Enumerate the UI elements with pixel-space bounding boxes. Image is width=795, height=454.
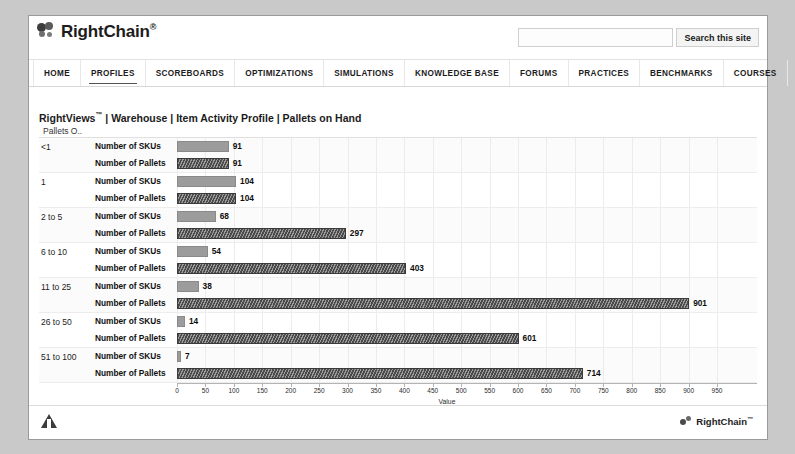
- chart-bar-row: Number of Pallets601: [39, 330, 757, 347]
- chart-category-group: 51 to 100Number of SKUs7Number of Pallet…: [39, 348, 757, 383]
- nav-item-benchmarks[interactable]: BENCHMARKS: [640, 60, 724, 86]
- bar-area: 91: [177, 138, 757, 155]
- site-header: RightChain® Search this site: [29, 16, 767, 60]
- nav-item-knowledge-base[interactable]: KNOWLEDGE BASE: [405, 60, 510, 86]
- bar-value-label: 104: [240, 176, 254, 186]
- brand-trademark: ®: [150, 22, 156, 32]
- bar-value-label: 297: [350, 228, 364, 238]
- bar-pallets[interactable]: [177, 193, 236, 204]
- breadcrumb-root[interactable]: RightViews: [39, 112, 95, 124]
- bar-pallets[interactable]: [177, 158, 229, 169]
- series-label: Number of Pallets: [95, 298, 166, 308]
- bar-area: 68: [177, 208, 757, 225]
- nav-item-label: PROFILES: [91, 69, 135, 78]
- axis-tick-label: 550: [484, 387, 495, 394]
- triangle-logo-icon: [41, 414, 57, 428]
- gear-cluster-icon: [37, 22, 57, 42]
- search-input[interactable]: [518, 28, 673, 47]
- axis-tick-label: 250: [314, 387, 325, 394]
- chart-category-group: 11 to 25Number of SKUs38Number of Pallet…: [39, 278, 757, 313]
- chart-bar-row: Number of SKUs68: [39, 208, 757, 225]
- search-button[interactable]: Search this site: [676, 28, 759, 47]
- nav-item-scoreboards[interactable]: SCOREBOARDS: [146, 60, 235, 86]
- series-label: Number of Pallets: [95, 368, 166, 378]
- bar-pallets[interactable]: [177, 368, 583, 379]
- nav-item-forums[interactable]: FORUMS: [510, 60, 569, 86]
- nav-item-profiles[interactable]: PROFILES: [81, 60, 146, 86]
- nav-item-practices[interactable]: PRACTICES: [569, 60, 640, 86]
- content-card: RightChain® Search this site HOMEPROFILE…: [28, 15, 768, 440]
- bar-pallets[interactable]: [177, 228, 346, 239]
- chart-bar-row: Number of Pallets403: [39, 260, 757, 277]
- breadcrumb-trail: | Warehouse | Item Activity Profile | Pa…: [102, 112, 361, 124]
- bar-skus[interactable]: [177, 246, 208, 257]
- screenshot-root: RightChain® Search this site HOMEPROFILE…: [0, 0, 795, 454]
- site-search: Search this site: [518, 28, 759, 47]
- bar-value-label: 7: [185, 351, 190, 361]
- bar-value-label: 38: [203, 281, 212, 291]
- bar-area: 14: [177, 313, 757, 330]
- bar-area: 38: [177, 278, 757, 295]
- bar-area: 104: [177, 190, 757, 207]
- bar-area: 54: [177, 243, 757, 260]
- bar-value-label: 91: [233, 158, 242, 168]
- axis-tick-label: 50: [202, 387, 209, 394]
- gear-cluster-icon: [680, 415, 693, 428]
- chart-bar-row: Number of SKUs14: [39, 313, 757, 330]
- chart-category-group: 2 to 5Number of SKUs68Number of Pallets2…: [39, 208, 757, 243]
- series-label: Number of SKUs: [95, 281, 161, 291]
- chart-bar-row: Number of SKUs38: [39, 278, 757, 295]
- bar-pallets[interactable]: [177, 298, 689, 309]
- bar-area: 7: [177, 348, 757, 365]
- axis-tick-label: 100: [228, 387, 239, 394]
- bar-value-label: 403: [410, 263, 424, 273]
- bar-value-label: 104: [240, 193, 254, 203]
- axis-tick-label: 650: [541, 387, 552, 394]
- bar-skus[interactable]: [177, 211, 216, 222]
- axis-tick-label: 950: [712, 387, 723, 394]
- site-logo[interactable]: RightChain®: [37, 22, 156, 42]
- axis-tick-label: 800: [626, 387, 637, 394]
- nav-item-simulations[interactable]: SIMULATIONS: [324, 60, 405, 86]
- nav-item-label: PRACTICES: [579, 69, 629, 78]
- nav-item-optimizations[interactable]: OPTIMIZATIONS: [235, 60, 324, 86]
- nav-item-courses[interactable]: COURSES: [724, 60, 788, 86]
- bar-skus[interactable]: [177, 141, 229, 152]
- bar-value-label: 14: [189, 316, 198, 326]
- bar-skus[interactable]: [177, 316, 185, 327]
- nav-item-label: FORUMS: [520, 69, 558, 78]
- bar-skus[interactable]: [177, 176, 236, 187]
- series-label: Number of Pallets: [95, 193, 166, 203]
- axis-tick-label: 500: [456, 387, 467, 394]
- series-label: Number of SKUs: [95, 351, 161, 361]
- bar-skus[interactable]: [177, 351, 181, 362]
- nav-item-home[interactable]: HOME: [33, 60, 81, 86]
- bar-area: 403: [177, 260, 757, 277]
- chart-plot-area: <1Number of SKUs91Number of Pallets911Nu…: [39, 137, 757, 383]
- series-label: Number of SKUs: [95, 141, 161, 151]
- bar-value-label: 714: [587, 368, 601, 378]
- chart-bar-row: Number of Pallets104: [39, 190, 757, 207]
- footer-brand-text: RightChain: [696, 416, 747, 427]
- axis-tick-label: 300: [342, 387, 353, 394]
- bar-value-label: 901: [693, 298, 707, 308]
- chart-bar-row: Number of SKUs104: [39, 173, 757, 190]
- bar-value-label: 91: [233, 141, 242, 151]
- nav-item-help[interactable]: HELP: [788, 60, 795, 86]
- chart-bar-row: Number of SKUs7: [39, 348, 757, 365]
- axis-tick-label: 150: [257, 387, 268, 394]
- axis-tick-label: 0: [175, 387, 179, 394]
- nav-item-label: COURSES: [734, 69, 777, 78]
- y-axis-title: Pallets O..: [43, 126, 757, 136]
- bar-pallets[interactable]: [177, 263, 406, 274]
- footer-brand-name: RightChain™: [696, 416, 753, 427]
- bar-area: 91: [177, 155, 757, 172]
- bar-pallets[interactable]: [177, 333, 519, 344]
- series-label: Number of Pallets: [95, 158, 166, 168]
- nav-item-label: HOME: [44, 69, 70, 78]
- series-label: Number of Pallets: [95, 228, 166, 238]
- pallets-on-hand-chart: Pallets O.. <1Number of SKUs91Number of …: [39, 126, 757, 405]
- bar-skus[interactable]: [177, 281, 199, 292]
- nav-item-label: OPTIMIZATIONS: [245, 69, 313, 78]
- nav-item-label: SCOREBOARDS: [156, 69, 224, 78]
